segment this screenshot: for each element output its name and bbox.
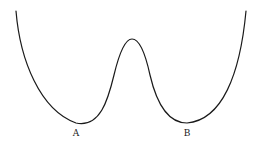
minimum-label-a: A [72, 128, 80, 138]
double-well-diagram: A B [0, 0, 256, 144]
minimum-label-b: B [184, 128, 191, 138]
double-well-curve [16, 11, 246, 124]
